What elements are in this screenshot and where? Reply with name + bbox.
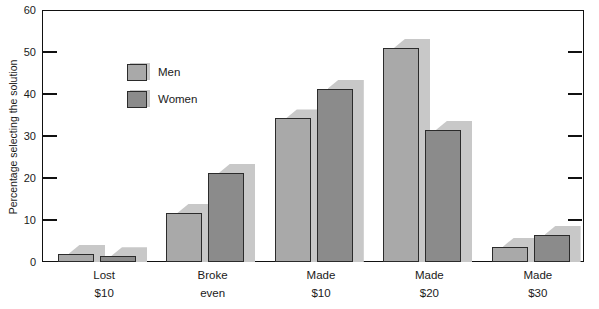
x-label-4-line2: $30 bbox=[493, 286, 583, 301]
x-label-1-line2: even bbox=[168, 286, 258, 301]
x-label-0-line2: $10 bbox=[59, 286, 149, 301]
x-label-4-line1: Made bbox=[493, 268, 583, 283]
legend-label: Men bbox=[158, 63, 180, 82]
x-label-3-line1: Made bbox=[384, 268, 474, 283]
x-label-2-line1: Made bbox=[276, 268, 366, 283]
x-label-0-line1: Lost bbox=[59, 268, 149, 283]
x-label-2-line2: $10 bbox=[276, 286, 366, 301]
x-label-1-line1: Broke bbox=[168, 268, 258, 283]
plot-area bbox=[42, 10, 584, 262]
x-label-3-line2: $20 bbox=[384, 286, 474, 301]
bar-chart-figure: Percentage selecting the solution 010203… bbox=[0, 0, 599, 309]
legend-swatch-women bbox=[127, 91, 147, 108]
y-axis-title: Percentage selecting the solution bbox=[4, 2, 22, 272]
legend-swatch-men bbox=[127, 64, 147, 81]
legend-label: Women bbox=[158, 90, 197, 109]
